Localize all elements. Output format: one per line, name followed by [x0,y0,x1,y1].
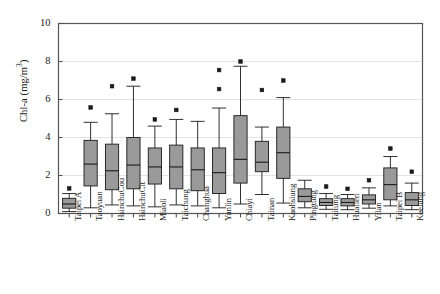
outlier-marker-0 [217,87,221,91]
y-tick-label-6: 6 [29,93,51,104]
x-tick-label-yilan: Yilan [373,202,383,221]
x-tick-label-keelung: Keelung [415,191,425,220]
outlier-marker-0 [89,106,93,110]
outlier-marker-0 [174,108,178,112]
x-tick-label-changhua: Changhua [201,186,211,221]
box-iqr [84,140,97,186]
x-tick-label-hualien: Hualien [351,193,361,220]
outlier-marker-0 [132,77,136,81]
x-tick-label-chiayi: Chiayi [244,198,254,221]
boxplot-miaoli [148,118,162,207]
outlier-marker-0 [346,187,350,191]
x-tick-label-miaoli: Miaoli [158,198,168,221]
x-tick-label-pingtung: Pingtung [308,190,318,221]
outlier-marker-0 [260,88,264,92]
y-tick-label-0: 0 [29,207,51,218]
plot-canvas [0,0,440,294]
outlier-marker-0 [324,185,328,189]
x-tick-label-taipei-b: Taipei B [394,191,404,220]
x-tick-label-tainan: Tainan [266,197,276,220]
box-iqr [148,148,161,184]
outlier-marker-1 [217,68,221,72]
x-tick-label-hsinchucit: HsinchuCit [137,181,147,220]
y-tick-label-10: 10 [29,17,51,28]
boxplot-chiayi [234,60,248,204]
y-tick-label-4: 4 [29,131,51,142]
x-tick-label-yunlin: Yunlin [223,198,233,221]
x-tick-label-taipei-a: Taipei A [73,191,83,220]
y-tick-label-2: 2 [29,169,51,180]
box-iqr [212,148,225,194]
boxplot-yunlin [212,68,226,208]
outlier-marker-0 [67,187,71,191]
outlier-marker-0 [410,170,414,174]
box-iqr [255,141,268,171]
boxplot-tainan [255,88,269,194]
y-tick-label-8: 8 [29,55,51,66]
x-tick-label-taichung: Taichung [180,189,190,221]
outlier-marker-0 [367,178,371,182]
x-tick-label-kaohsiung: Kaohsiung [287,183,297,220]
outlier-marker-0 [110,84,114,88]
box-plot-figure: Chl-a (mg/m3) 0246810 Taipei ATaoyuanHsi… [0,0,440,294]
box-iqr [234,116,247,183]
outlier-marker-0 [153,118,157,122]
x-tick-label-taoyuan: Taoyuan [94,191,104,220]
x-tick-label-taitung: Taitung [330,195,340,221]
outlier-marker-0 [282,79,286,83]
outlier-marker-0 [239,60,243,64]
outlier-marker-0 [389,147,393,151]
x-tick-label-hsinchucou: HsinchuCou [116,177,126,220]
